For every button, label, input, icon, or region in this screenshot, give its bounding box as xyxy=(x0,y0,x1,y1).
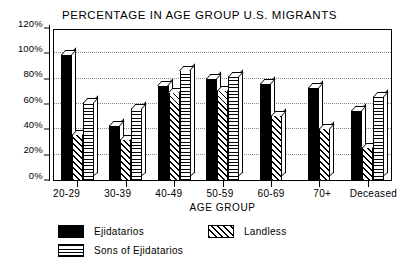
bar-landless-70- xyxy=(319,128,330,181)
chart-title: PERCENTAGE IN AGE GROUP U.S. MIGRANTS xyxy=(0,9,399,21)
y-axis-tick-mark xyxy=(44,53,50,54)
y-axis-tick-mark xyxy=(44,104,50,105)
chart-figure: PERCENTAGE IN AGE GROUP U.S. MIGRANTS 12… xyxy=(0,0,399,277)
bar-ejidatarios-deceased xyxy=(351,110,362,181)
bar-group-50-59 xyxy=(198,29,246,181)
x-axis-label-70-: 70+ xyxy=(297,188,348,199)
x-axis-tick-mark xyxy=(319,181,320,187)
bar-landless-deceased xyxy=(362,147,373,181)
x-axis-label-60-69: 60-69 xyxy=(246,188,297,199)
bar-group-60-69 xyxy=(247,29,295,181)
bar-ejidatarios-70- xyxy=(308,87,319,181)
bar-ejidatarios-50-59 xyxy=(206,78,217,181)
x-axis-ticks xyxy=(53,181,392,187)
y-axis-tick-label: 60% xyxy=(23,93,43,104)
bar-ejidatarios-30-39 xyxy=(109,125,120,181)
bar-landless-20-29 xyxy=(72,134,83,181)
x-axis-title: AGE GROUP xyxy=(53,202,392,213)
bar-ejidatarios-20-29 xyxy=(61,54,72,181)
x-axis-label-30-39: 30-39 xyxy=(92,188,143,199)
legend-row-2: Sons of Ejidatarios xyxy=(58,244,358,257)
legend-item-sons-of-ejidatarios: Sons of Ejidatarios xyxy=(58,244,208,257)
y-axis-tick-label: 20% xyxy=(23,144,43,155)
y-axis-tick-mark xyxy=(44,180,50,181)
legend-row-1: Ejidatarios Landless xyxy=(58,225,358,238)
x-axis-labels: 20-2930-3940-4950-5960-6970+Deceased xyxy=(41,188,399,199)
bar-series-container xyxy=(53,29,392,181)
legend-label-landless: Landless xyxy=(244,226,286,237)
y-axis-tick-mark xyxy=(44,78,50,79)
legend-item-ejidatarios: Ejidatarios xyxy=(58,225,208,238)
bar-ejidatarios-60-69 xyxy=(260,83,271,181)
x-axis-label-deceased: Deceased xyxy=(348,188,399,199)
bar-landless-50-59 xyxy=(217,90,228,181)
x-axis-tick-mark xyxy=(174,181,175,187)
x-axis-label-50-59: 50-59 xyxy=(194,188,245,199)
x-axis-label-40-49: 40-49 xyxy=(143,188,194,199)
legend-swatch-cross-hatch-icon xyxy=(58,244,84,257)
y-axis-tick-label: 100% xyxy=(18,43,43,54)
legend-swatch-solid-icon xyxy=(58,225,84,238)
y-axis-tick-label: 0% xyxy=(29,169,43,180)
bar-landless-40-49 xyxy=(169,92,180,181)
y-axis-tick-label: 120% xyxy=(18,17,43,28)
bar-sons-of-ejidatarios-deceased xyxy=(373,96,384,181)
y-axis-tick-label: 80% xyxy=(23,68,43,79)
y-axis-tick-mark xyxy=(44,28,50,29)
legend-label-ejidatarios: Ejidatarios xyxy=(94,226,144,237)
bar-landless-30-39 xyxy=(120,139,131,181)
bar-group-40-49 xyxy=(150,29,198,181)
x-axis-tick-mark xyxy=(77,181,78,187)
legend-label-sons-of-ejidatarios: Sons of Ejidatarios xyxy=(94,245,183,256)
bar-group-30-39 xyxy=(101,29,149,181)
bar-landless-60-69 xyxy=(271,115,282,181)
bar-group-70- xyxy=(295,29,343,181)
bar-sons-of-ejidatarios-40-49 xyxy=(180,70,191,181)
bar-ejidatarios-40-49 xyxy=(158,85,169,181)
x-axis-tick-mark xyxy=(368,181,369,187)
x-axis-tick-mark xyxy=(271,181,272,187)
y-axis: 120%100%80%60%40%20%0% xyxy=(0,29,53,181)
y-axis-tick-label: 40% xyxy=(23,119,43,130)
x-axis-tick-mark xyxy=(126,181,127,187)
y-axis-tick-mark xyxy=(44,154,50,155)
bar-group-deceased xyxy=(344,29,392,181)
x-axis-label-20-29: 20-29 xyxy=(41,188,92,199)
bar-sons-of-ejidatarios-50-59 xyxy=(228,76,239,181)
bar-sons-of-ejidatarios-30-39 xyxy=(131,108,142,181)
legend-swatch-diagonal-hatch-icon xyxy=(208,225,234,238)
x-axis-tick-mark xyxy=(223,181,224,187)
y-axis-tick-mark xyxy=(44,129,50,130)
bar-sons-of-ejidatarios-20-29 xyxy=(83,102,94,181)
bar-group-20-29 xyxy=(53,29,101,181)
chart-legend: Ejidatarios Landless Sons of Ejidatarios xyxy=(58,225,358,263)
legend-item-landless: Landless xyxy=(208,225,286,238)
